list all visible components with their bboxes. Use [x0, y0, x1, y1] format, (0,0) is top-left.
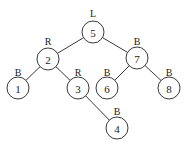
tree-node-3: 3R — [67, 67, 89, 100]
node-label: 2 — [45, 54, 51, 66]
tree-node-7: 7B — [126, 36, 148, 70]
tree-node-6: 6B — [96, 67, 118, 100]
edge-5-2 — [57, 38, 83, 54]
node-label: 7 — [134, 53, 140, 65]
tree-node-8: 8B — [158, 67, 180, 100]
node-tag: B — [15, 67, 22, 78]
tree-diagram: 5L2R7B1B3R6B8B4B — [0, 0, 187, 147]
edge-7-6 — [115, 66, 129, 80]
node-tag: R — [45, 36, 52, 47]
node-label: 6 — [104, 83, 110, 95]
edge-7-8 — [145, 66, 161, 81]
tree-node-4: 4B — [106, 106, 128, 140]
edge-5-7 — [102, 38, 127, 53]
node-label: 1 — [15, 83, 21, 95]
edge-2-1 — [26, 67, 40, 81]
node-tag: B — [166, 67, 173, 78]
node-tag: L — [90, 8, 96, 19]
node-tag: B — [114, 106, 121, 117]
tree-node-5: 5L — [82, 8, 104, 44]
node-tag: B — [134, 36, 141, 47]
edge-3-4 — [86, 96, 110, 120]
node-tag: B — [104, 67, 111, 78]
tree-node-1: 1B — [7, 67, 29, 100]
node-label: 4 — [114, 123, 120, 135]
node-tag: R — [75, 67, 82, 78]
edge-2-3 — [56, 67, 70, 81]
node-label: 8 — [166, 83, 172, 95]
node-label: 5 — [90, 27, 96, 39]
node-label: 3 — [75, 83, 81, 95]
tree-node-2: 2R — [37, 36, 59, 71]
